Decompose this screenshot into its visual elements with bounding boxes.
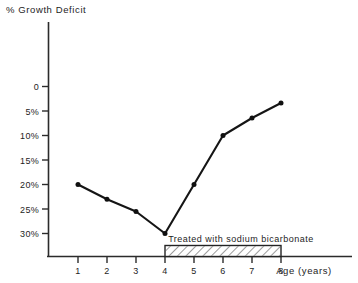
x-axis-ticks: 1 2 3 4 5 6 7 8	[75, 257, 283, 276]
y-tick-label-25: 25%	[20, 205, 39, 215]
x-tick-label-1: 1	[75, 266, 80, 276]
y-tick-label-15: 15%	[20, 156, 39, 166]
growth-deficit-line	[78, 103, 281, 234]
x-tick-label-3: 3	[133, 266, 138, 276]
x-tick-label-6: 6	[220, 266, 225, 276]
y-tick-label-0: 0	[34, 82, 39, 92]
data-points	[76, 101, 284, 237]
x-tick-label-2: 2	[104, 266, 109, 276]
y-tick-label-20: 20%	[20, 180, 39, 190]
treatment-caption: Treated with sodium bicarbonate	[168, 234, 314, 244]
y-axis-title: % Growth Deficit	[6, 4, 86, 15]
data-point-age-7	[250, 116, 255, 121]
chart-canvas: % Growth Deficit 0 5% 10% 15% 20% 25% 30…	[0, 0, 358, 283]
x-tick-label-4: 4	[162, 266, 167, 276]
x-tick-label-5: 5	[191, 266, 196, 276]
growth-deficit-chart: % Growth Deficit 0 5% 10% 15% 20% 25% 30…	[0, 0, 358, 283]
y-tick-label-30: 30%	[20, 229, 39, 239]
y-axis-ticks: 0 5% 10% 15% 20% 25% 30%	[20, 82, 49, 239]
y-tick-label-10: 10%	[20, 131, 39, 141]
data-point-age-6	[221, 133, 226, 138]
data-point-age-4	[163, 231, 168, 236]
y-tick-label-5: 5%	[25, 107, 39, 117]
x-axis-title: Age (years)	[276, 265, 332, 276]
data-point-age-3	[134, 209, 139, 214]
treatment-bar-hatch	[166, 246, 281, 256]
data-point-age-1	[76, 182, 81, 187]
data-point-age-5	[192, 182, 197, 187]
data-point-age-2	[105, 197, 110, 202]
data-point-age-8	[279, 101, 284, 106]
x-tick-label-7: 7	[249, 266, 254, 276]
